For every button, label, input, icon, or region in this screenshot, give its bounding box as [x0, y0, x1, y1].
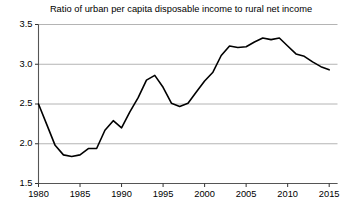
x-tick-label: 1980 [19, 190, 59, 199]
x-tick-label: 2000 [185, 190, 225, 199]
x-tick-label: 1995 [143, 190, 183, 199]
chart-container: Ratio of urban per capita disposable inc… [0, 0, 362, 222]
x-tick-label: 2015 [309, 190, 349, 199]
x-tick-label: 2010 [268, 190, 308, 199]
x-tick-label: 1990 [102, 190, 142, 199]
x-tick-label: 2005 [226, 190, 266, 199]
x-tick-label: 1985 [60, 190, 100, 199]
x-axis-tick-labels: 19801985199019952000200520102015 [0, 0, 362, 222]
